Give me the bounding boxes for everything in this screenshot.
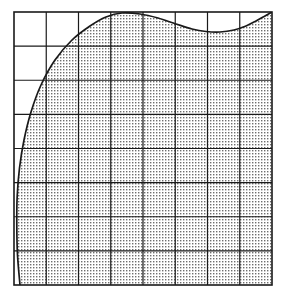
shaded-region-grid-chart bbox=[0, 0, 292, 300]
figure-container bbox=[0, 0, 292, 300]
